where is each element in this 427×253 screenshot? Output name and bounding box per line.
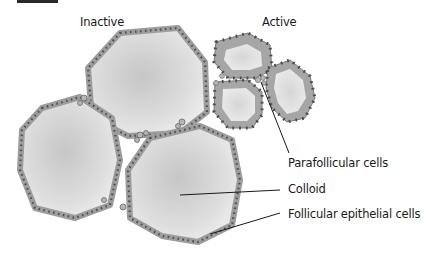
active-follicles	[214, 33, 315, 128]
callout-colloid: Colloid	[288, 182, 326, 196]
label-inactive: Inactive	[80, 15, 124, 29]
active-follicle-left	[214, 80, 262, 128]
inactive-follicle-bottom	[128, 126, 240, 242]
callout-parafollicular-cells: Parafollicular cells	[288, 156, 388, 170]
label-active: Active	[262, 15, 296, 29]
active-follicle-top	[214, 33, 272, 78]
thyroid-follicle-diagram: Inactive Active Parafollicular cells Col…	[0, 0, 427, 253]
callout-follicular-epithelial-cells: Follicular epithelial cells	[288, 207, 420, 221]
